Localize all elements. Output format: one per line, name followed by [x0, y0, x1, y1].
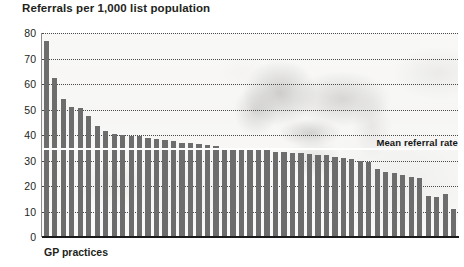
bar — [52, 78, 57, 237]
bar — [137, 136, 142, 237]
bar — [196, 144, 201, 237]
bar — [188, 143, 193, 237]
bar — [162, 140, 167, 237]
bar — [392, 173, 397, 237]
x-axis-line — [42, 236, 459, 238]
bar — [154, 139, 159, 237]
y-tick-50: 50 — [2, 105, 36, 116]
y-axis-tick-labels: 80706050403020100 — [0, 33, 36, 237]
bar-series — [42, 33, 458, 237]
bar — [239, 149, 244, 237]
x-axis-title: GP practices — [44, 246, 108, 258]
bar — [298, 153, 303, 237]
bar — [213, 146, 218, 237]
bar — [451, 209, 456, 237]
y-tick-30: 30 — [2, 156, 36, 167]
bar — [332, 157, 337, 237]
bar — [171, 141, 176, 237]
bar — [375, 169, 380, 237]
y-tick-70: 70 — [2, 54, 36, 65]
mean-referral-rate-line — [42, 148, 458, 150]
bar — [273, 152, 278, 237]
y-tick-10: 10 — [2, 207, 36, 218]
bar — [179, 143, 184, 237]
y-tick-20: 20 — [2, 181, 36, 192]
bar — [129, 136, 134, 237]
bar — [383, 172, 388, 237]
bar — [230, 148, 235, 237]
bar — [315, 155, 320, 237]
bar — [349, 159, 354, 237]
bar — [145, 138, 150, 237]
bar — [307, 154, 312, 237]
plot-area — [42, 33, 458, 237]
bar — [341, 158, 346, 237]
y-tick-60: 60 — [2, 79, 36, 90]
bar — [44, 41, 49, 237]
bar — [222, 148, 227, 237]
bar — [264, 150, 269, 237]
bar — [409, 177, 414, 237]
bar — [247, 149, 252, 237]
mean-referral-rate-label: Mean referral rate — [376, 137, 458, 148]
bar — [69, 107, 74, 237]
bar — [417, 178, 422, 237]
bar — [443, 194, 448, 237]
y-tick-40: 40 — [2, 130, 36, 141]
bar — [95, 126, 100, 237]
bar — [256, 150, 261, 237]
bar — [205, 145, 210, 237]
y-tick-0: 0 — [2, 232, 36, 243]
bar — [400, 175, 405, 237]
bar — [61, 99, 66, 237]
bar — [78, 108, 83, 237]
bar — [366, 162, 371, 237]
chart-title: Referrals per 1,000 list population — [22, 2, 210, 14]
bar — [86, 116, 91, 237]
bar — [434, 197, 439, 237]
bar — [281, 152, 286, 237]
bar — [426, 196, 431, 237]
bar — [120, 135, 125, 237]
bar — [324, 155, 329, 237]
y-tick-80: 80 — [2, 28, 36, 39]
bar — [290, 153, 295, 237]
bar — [358, 161, 363, 238]
chart-figure: Referrals per 1,000 list population 8070… — [0, 0, 464, 267]
